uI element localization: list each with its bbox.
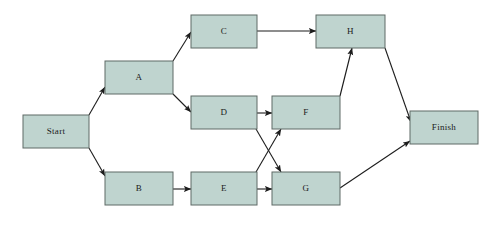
node-finish[interactable]: Finish xyxy=(410,111,478,144)
node-h[interactable]: H xyxy=(316,15,385,48)
network-diagram-canvas: StartABCDEFGHFinish xyxy=(0,0,497,228)
node-label-c: C xyxy=(221,26,227,36)
node-label-start: Start xyxy=(47,126,66,136)
node-label-e: E xyxy=(221,183,227,193)
node-label-a: A xyxy=(136,72,143,82)
node-d[interactable]: D xyxy=(191,96,257,129)
node-start[interactable]: Start xyxy=(23,115,89,148)
node-label-finish: Finish xyxy=(432,122,457,132)
node-label-h: H xyxy=(347,26,354,36)
node-label-d: D xyxy=(221,107,228,117)
node-c[interactable]: C xyxy=(191,15,257,48)
node-label-b: B xyxy=(136,183,142,193)
network-diagram: StartABCDEFGHFinish xyxy=(0,0,497,228)
node-a[interactable]: A xyxy=(105,61,173,94)
node-g[interactable]: G xyxy=(272,172,340,205)
node-label-f: F xyxy=(303,107,308,117)
node-label-g: G xyxy=(303,183,310,193)
node-f[interactable]: F xyxy=(272,96,340,129)
node-b[interactable]: B xyxy=(105,172,173,205)
node-e[interactable]: E xyxy=(191,172,257,205)
